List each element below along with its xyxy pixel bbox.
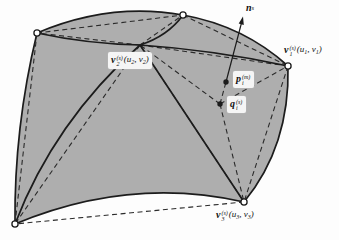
vertex-label-v3: v(s)3(u3, v3) <box>216 209 254 222</box>
vertex-marker-topcenter <box>180 12 186 18</box>
point-p-label: p(m)i <box>233 71 254 88</box>
point-p-dot <box>223 79 228 84</box>
point-q-dot <box>217 101 222 106</box>
surface-diagram-canvas <box>0 0 339 240</box>
vertex-label-v1: v(s)1(u1, v1) <box>284 44 322 57</box>
normal-subscript: s <box>252 5 255 12</box>
vertex-marker-v1 <box>285 63 291 69</box>
normal-vector-label: ns <box>246 3 254 13</box>
surface-patch <box>15 11 288 224</box>
vertex-label-v2: v(s)2(u2, v2) <box>108 52 152 69</box>
vertex-marker-v3 <box>241 199 247 205</box>
vertex-marker-topleft <box>34 30 40 36</box>
vertex-marker-bottomleft <box>12 221 18 227</box>
point-q-label: q(s)i <box>227 96 246 113</box>
surface-mesh-figure: ns v(s)1(u1, v1) v(s)2(u2, v2) v(s)3(u3,… <box>0 0 339 240</box>
